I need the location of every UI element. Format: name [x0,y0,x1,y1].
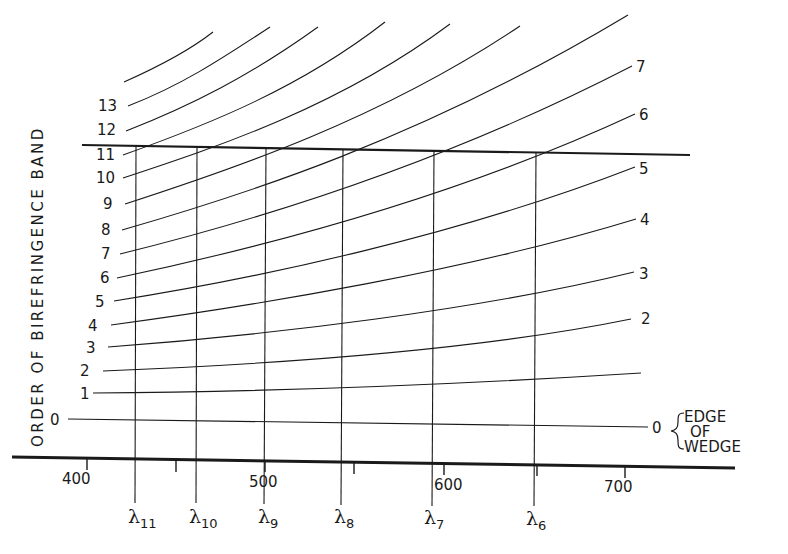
band-curve-6 [117,114,635,278]
band-curves [68,15,648,427]
band-curve-8 [122,15,628,230]
right-order-labels: 2 3 4 5 6 7 [636,58,651,328]
lambda-label-9: λ9 [258,505,278,531]
band-curve-4 [111,219,636,325]
lambda-labels: λ11 λ10 λ9 λ8 λ7 λ6 [128,505,546,533]
x-tick-label-700: 700 [604,478,633,496]
lambda-line-7 [432,151,434,506]
order-label-left-8: 8 [101,221,111,239]
left-order-labels: 0 1 2 3 4 5 6 7 8 9 10 11 12 13 [50,97,117,429]
order-label-left-11: 11 [96,146,115,164]
order-label-left-4: 4 [88,317,98,335]
order-label-left-5: 5 [95,293,105,311]
edge-of-wedge-label: 0 EDGE OF WEDGE [652,408,741,456]
edge-label-line-3: WEDGE [684,438,741,456]
order-label-left-10: 10 [96,169,115,187]
band-curve-10 [123,24,450,178]
band-curve-9 [125,26,520,204]
band-curve-13 [128,27,270,106]
band-curve-14 [124,32,213,82]
order-label-left-7: 7 [101,245,111,263]
order-label-left-12: 12 [97,121,116,139]
band-curve-12 [126,27,318,131]
order-label-right-2: 2 [641,310,651,328]
order-label-left-6: 6 [100,269,110,287]
band-curve-1 [93,373,641,393]
lambda-label-8: λ8 [334,505,354,531]
lambda-line-8 [341,149,343,505]
y-axis-title: ORDER OF BIREFRINGENCE BAND [29,126,47,447]
order-label-left-13: 13 [98,97,117,115]
x-tick-label-400: 400 [62,470,91,488]
order-label-left-9: 9 [103,195,113,213]
birefringence-diagram: 400 500 600 700 λ11 λ10 λ9 λ8 λ7 λ6 0 1 … [0,0,788,554]
band-curve-11 [123,22,385,155]
lambda-line-9 [264,148,266,504]
band-curve-2 [103,319,631,371]
band-curve-0 [68,419,648,427]
brace-icon [671,413,684,449]
order-label-right-5: 5 [639,160,649,178]
lambda-line-10 [196,147,197,503]
order-label-left-0: 0 [50,411,60,429]
wavelength-lines [135,146,536,506]
order-label-right-6: 6 [639,106,649,124]
x-tick-label-600: 600 [434,476,463,494]
order-label-right-3: 3 [639,265,649,283]
lambda-label-11: λ11 [128,505,157,531]
band-curve-5 [114,167,635,301]
order-label-left-2: 2 [80,362,90,380]
order-label-right-4: 4 [640,211,650,229]
order-label-left-1: 1 [80,385,90,403]
order-label-left-3: 3 [86,339,96,357]
lambda-label-7: λ7 [424,506,444,532]
order-label-right-7: 7 [636,58,646,76]
lambda-label-10: λ10 [189,505,218,531]
edge-order-zero: 0 [652,419,662,437]
lambda-label-6: λ6 [526,507,546,533]
reference-line-order-11 [82,145,690,155]
lambda-line-6 [534,153,536,506]
x-axis [12,457,735,468]
lambda-line-11 [135,146,136,503]
x-tick-label-500: 500 [249,473,278,491]
